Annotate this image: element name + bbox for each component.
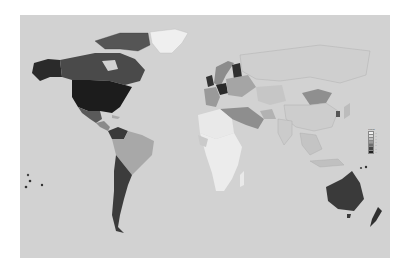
legend: Legend — — — — — — — [368,128,388,153]
region-indonesia[interactable] [310,159,344,167]
region-greenland[interactable] [150,29,188,53]
region-new-zealand[interactable] [370,207,382,227]
legend-label: — [375,135,377,137]
legend-label: — [375,141,377,143]
region-korea[interactable] [336,111,340,117]
region-western-europe[interactable] [204,87,220,107]
region-southeast-asia[interactable] [300,133,322,155]
region-uk[interactable] [206,75,214,87]
region-australia[interactable] [326,171,364,211]
legend-label: — [375,138,377,140]
region-eastern-europe[interactable] [226,75,256,97]
region-tasmania[interactable] [347,214,351,218]
region-japan[interactable] [344,103,350,119]
legend-item: — [368,150,388,153]
legend-label: — [375,151,377,153]
island-dot[interactable] [41,184,43,186]
legend-swatch [368,150,374,154]
world-map [20,15,390,258]
region-madagascar[interactable] [240,171,244,187]
region-mongolia[interactable] [302,89,332,105]
island-dot[interactable] [360,167,362,169]
island-dot[interactable] [27,174,29,176]
region-russia[interactable] [240,45,370,83]
region-alaska[interactable] [32,59,62,81]
region-central-asia[interactable] [256,85,286,105]
region-caribbean[interactable] [112,115,120,119]
region-india[interactable] [278,119,292,145]
region-central-america[interactable] [96,121,110,131]
legend-label: — [375,132,377,134]
map-frame: Legend — — — — — — — [20,15,390,258]
legend-label: — [375,148,377,150]
region-usa[interactable] [72,80,132,113]
legend-label: — [375,144,377,146]
region-canada-islands[interactable] [95,33,150,51]
island-dot[interactable] [25,186,28,189]
region-iran[interactable] [260,109,276,119]
island-dot[interactable] [365,166,367,168]
island-dot[interactable] [29,180,32,183]
